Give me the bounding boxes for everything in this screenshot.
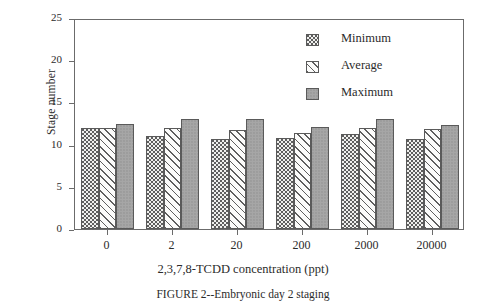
bar [376,119,394,229]
legend-swatch-icon [306,88,319,100]
x-tick-label-20000: 20000 [392,238,472,253]
legend-item-minimum: Minimum [306,31,436,58]
bar [441,125,459,229]
x-tick-mark [172,230,173,235]
y-tick-label: 15 [51,95,62,107]
y-tick-label: 0 [57,222,63,234]
legend-label: Maximum [341,85,393,100]
bar [146,136,164,229]
bar [181,119,199,229]
figure-root: Stage number 0510152025 0220200200020000… [0,0,486,307]
legend-item-maximum: Maximum [306,85,436,112]
legend-item-average: Average [306,58,436,85]
bar [116,124,134,230]
bar [164,128,182,229]
legend-swatch-icon [306,34,319,46]
bar [246,119,264,229]
legend: MinimumAverageMaximum [306,31,436,112]
bar [406,139,424,229]
bar [229,130,247,229]
bar [294,133,312,229]
legend-label: Minimum [341,31,391,46]
x-axis-title: 2,3,7,8-TCDD concentration (ppt) [0,262,486,277]
legend-label: Average [341,58,382,73]
legend-swatch-icon [306,61,319,73]
y-tick-label: 5 [57,180,63,192]
x-tick-mark [237,230,238,235]
y-tick-label: 10 [51,138,62,150]
y-tick-label: 25 [51,11,62,23]
figure-caption: FIGURE 2--Embryonic day 2 staging [0,288,486,300]
x-tick-mark [107,230,108,235]
y-tick-mark [69,230,74,231]
x-tick-mark [367,230,368,235]
x-tick-mark [302,230,303,235]
bar [276,138,294,229]
bar [211,139,229,229]
x-tick-mark [432,230,433,235]
bar [99,128,117,229]
bar [424,129,442,229]
bar [359,128,377,229]
y-tick-label: 20 [51,53,62,65]
bar [311,127,329,229]
bar [81,128,99,229]
bar [341,134,359,229]
